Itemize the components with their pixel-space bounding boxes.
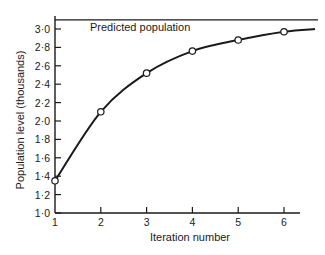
population-curve — [55, 29, 315, 181]
y-ticks: 1·01·21·41·61·82·02·22·42·62·83·0 — [35, 23, 61, 219]
y-tick-label: 1·4 — [35, 170, 50, 182]
data-point-marker — [281, 29, 287, 35]
y-tick-label: 1·2 — [35, 189, 50, 201]
x-tick-label: 3 — [144, 216, 150, 228]
population-chart: 1·01·21·41·61·82·02·22·42·62·83·0 123456… — [0, 0, 325, 255]
data-point-marker — [52, 178, 58, 184]
x-tick-label: 4 — [189, 216, 195, 228]
x-axis-label: Iteration number — [150, 231, 230, 243]
axes — [55, 16, 300, 213]
y-tick-label: 1·8 — [35, 133, 50, 145]
y-tick-label: 1·0 — [35, 207, 50, 219]
data-point-marker — [189, 48, 195, 54]
y-tick-label: 2·2 — [35, 97, 50, 109]
data-point-marker — [235, 37, 241, 43]
x-tick-label: 2 — [98, 216, 104, 228]
x-ticks: 123456 — [52, 207, 287, 228]
data-point-marker — [98, 109, 104, 115]
y-tick-label: 1·6 — [35, 152, 50, 164]
x-tick-label: 5 — [235, 216, 241, 228]
y-tick-label: 3·0 — [35, 23, 50, 35]
y-tick-label: 2·6 — [35, 60, 50, 72]
y-tick-label: 2·4 — [35, 78, 50, 90]
data-point-marker — [143, 70, 149, 76]
y-tick-label: 2·8 — [35, 41, 50, 53]
y-tick-label: 2·0 — [35, 115, 50, 127]
x-tick-label: 1 — [52, 216, 58, 228]
x-tick-label: 6 — [281, 216, 287, 228]
predicted-population-label: Predicted population — [90, 21, 190, 33]
y-axis-label: Population level (thousands) — [14, 51, 26, 190]
data-markers — [52, 29, 287, 184]
